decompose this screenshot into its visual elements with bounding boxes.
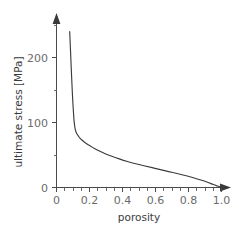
x-tick-label-0: 0 <box>53 194 60 207</box>
x-tick-label-1.0: 1.0 <box>213 194 231 207</box>
chart-figure: 200 100 0 ultimate stress [MPa] <box>0 0 239 238</box>
ultimate-stress-vs-porosity-chart: 200 100 0 ultimate stress [MPa] <box>0 0 239 238</box>
y-tick-label-100: 100 <box>27 117 48 130</box>
y-axis-title: ultimate stress [MPa] <box>12 56 24 167</box>
x-axis-title: porosity <box>118 211 160 223</box>
x-tick-label-0.6: 0.6 <box>147 194 165 207</box>
y-tick-label-0: 0 <box>41 182 48 195</box>
x-tick-label-0.8: 0.8 <box>180 194 198 207</box>
x-tick-label-0.2: 0.2 <box>81 194 99 207</box>
x-tick-label-0.4: 0.4 <box>114 194 132 207</box>
y-tick-label-200: 200 <box>27 52 48 65</box>
